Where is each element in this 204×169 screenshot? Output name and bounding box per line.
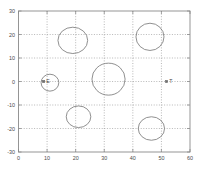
marker-T <box>165 80 167 82</box>
y-tick-label: -30 <box>7 149 15 155</box>
ellipse-top-right <box>136 23 164 50</box>
marker-E-label: E <box>46 78 50 84</box>
x-tick-label: 60 <box>187 155 193 161</box>
x-tick-label: 30 <box>101 155 107 161</box>
ellipse-top-left <box>58 27 88 53</box>
x-axis-tick-labels: 0102030405060 <box>17 155 193 161</box>
x-tick-label: 20 <box>73 155 79 161</box>
y-tick-label: 10 <box>9 55 15 61</box>
ellipse-center <box>92 63 125 95</box>
figure-container: ET 0102030405060 -30-20-100102030 <box>0 0 204 169</box>
y-tick-label: 20 <box>9 32 15 38</box>
marker-E <box>43 80 45 82</box>
y-tick-label: -10 <box>7 102 15 108</box>
x-tick-label: 50 <box>158 155 164 161</box>
y-axis-tick-labels: -30-20-100102030 <box>7 8 15 155</box>
y-tick-label: 30 <box>9 8 15 14</box>
y-tick-label: 0 <box>12 79 15 85</box>
y-tick-label: -20 <box>7 126 15 132</box>
x-tick-label: 40 <box>130 155 136 161</box>
x-tick-label: 10 <box>44 155 50 161</box>
x-tick-label: 0 <box>17 155 20 161</box>
chart-canvas: ET 0102030405060 -30-20-100102030 <box>0 0 204 169</box>
ellipse-bottom-left <box>66 106 91 128</box>
